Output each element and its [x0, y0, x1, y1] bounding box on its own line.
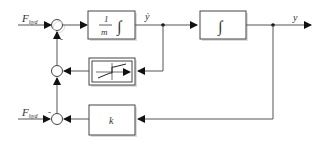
- sum-junction-bottom: [52, 114, 63, 125]
- mass-integrator-block: 1 m ∫: [88, 11, 137, 41]
- minus-sign-bottom: -: [48, 107, 51, 117]
- velocity-label: ẏ: [144, 11, 150, 22]
- output-label: y: [292, 12, 298, 23]
- sum-junction-middle: [52, 66, 63, 77]
- input-bottom-label: Fhyd: [21, 106, 38, 119]
- svg-text:m: m: [101, 27, 108, 37]
- input-bottom: Fhyd: [18, 106, 50, 119]
- block-diagram: Fhyd - - 1 m ∫ ẏ ∫ y: [0, 0, 322, 146]
- integrator-block: ∫: [200, 11, 248, 41]
- svg-text:1: 1: [104, 14, 109, 24]
- gain-block: k: [89, 105, 137, 137]
- nonlinearity-block: [89, 58, 137, 87]
- input-top: Fhyd: [18, 12, 51, 25]
- minus-sign-top: -: [60, 34, 63, 44]
- svg-text:k: k: [109, 115, 114, 126]
- sum-junction-top: [52, 20, 65, 33]
- input-top-label: Fhyd: [21, 12, 38, 25]
